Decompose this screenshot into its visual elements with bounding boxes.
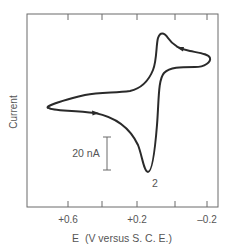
bottom-ticks (68, 201, 207, 207)
direction-arrow-icon (176, 47, 184, 52)
x-tick-label-0.6: +0.6 (58, 214, 78, 225)
top-ticks (68, 14, 207, 20)
x-tick-label-neg0.2: –0.2 (197, 214, 217, 225)
scale-bar (103, 137, 111, 170)
cyclic-voltammogram-chart: +0.6 +0.2 –0.2 E (V versus S. C. E.) Cur… (0, 0, 230, 249)
peak-annotation: 2 (152, 177, 158, 189)
x-axis-label: E (V versus S. C. E.) (72, 232, 172, 244)
direction-arrow-icon (92, 111, 99, 116)
y-axis-label: Current (8, 95, 19, 129)
x-tick-label-0.2: +0.2 (127, 214, 147, 225)
scale-bar-label: 20 nA (72, 147, 99, 159)
